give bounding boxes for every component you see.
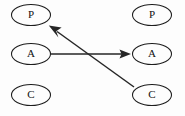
node-right-p[interactable]: P <box>133 5 172 26</box>
node-right-a[interactable]: A <box>133 44 172 65</box>
edge-a-to-a[interactable] <box>51 50 131 59</box>
diagram-canvas: P A C P A C <box>0 0 185 116</box>
node-left-p[interactable]: P <box>12 5 51 26</box>
node-left-p-label: P <box>28 8 34 20</box>
node-right-a-label: A <box>148 47 156 59</box>
node-right-c[interactable]: C <box>133 85 172 106</box>
edge-c-to-p-line[interactable] <box>57 32 134 88</box>
left-column-group: P A C <box>12 5 51 106</box>
node-left-c-label: C <box>27 88 34 100</box>
node-left-a-label: A <box>27 47 35 59</box>
graph-svg: P A C P A C <box>0 0 185 116</box>
node-right-c-label: C <box>148 88 155 100</box>
node-left-c[interactable]: C <box>12 85 51 106</box>
node-left-a[interactable]: A <box>12 44 51 65</box>
edge-c-to-p-arrowhead <box>49 26 62 38</box>
node-right-p-label: P <box>149 8 155 20</box>
right-column-group: P A C <box>133 5 172 106</box>
